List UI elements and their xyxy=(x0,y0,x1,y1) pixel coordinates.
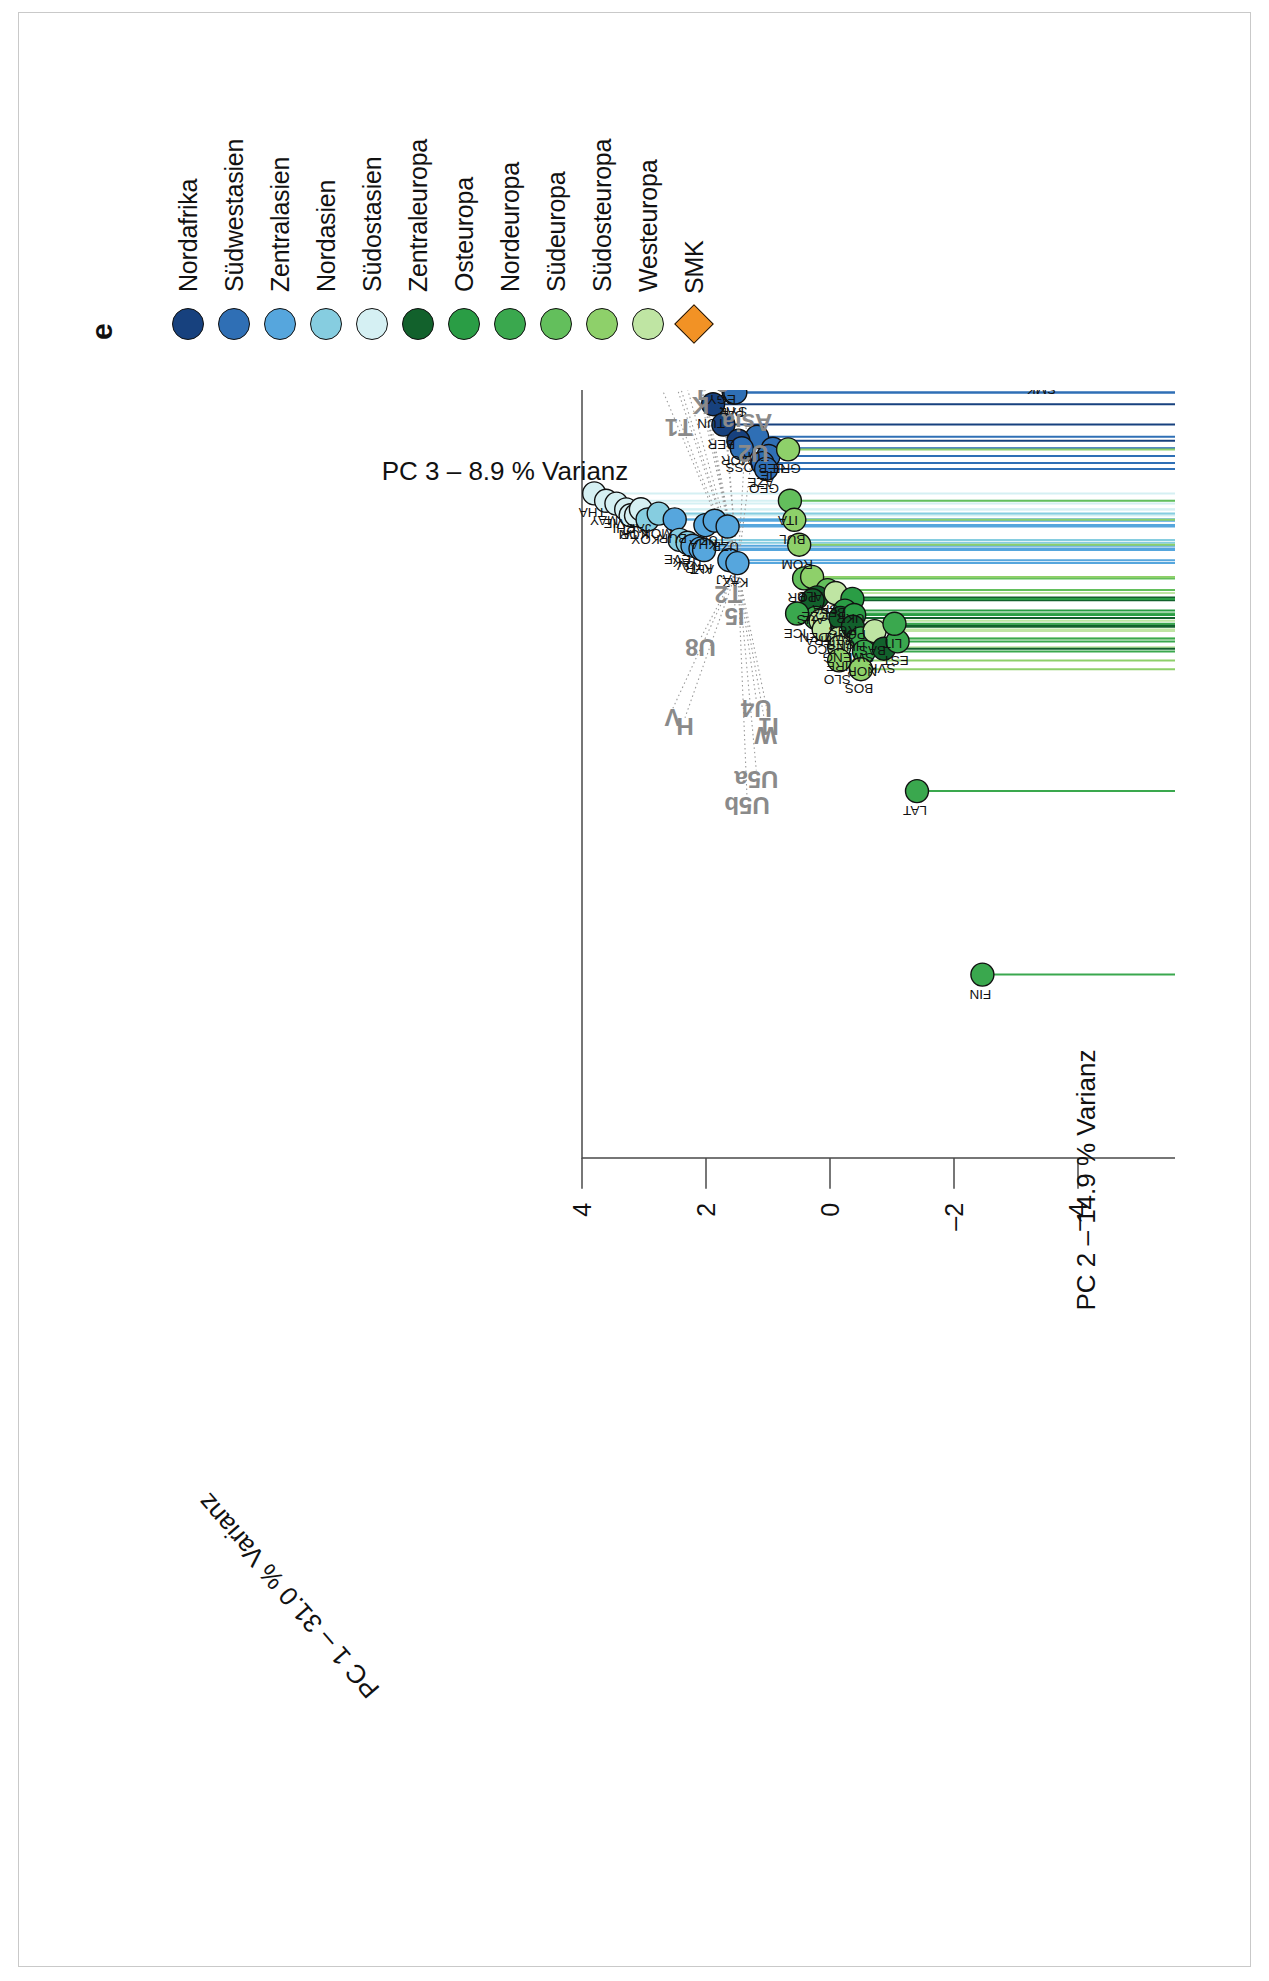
legend-label: Südwestasien xyxy=(219,138,248,291)
point-label: ICE xyxy=(783,625,806,640)
legend-label: Osteuropa xyxy=(449,177,478,292)
point-label: ITA xyxy=(777,512,797,527)
point-label: ALT xyxy=(690,562,714,577)
point-label: BER xyxy=(707,436,735,451)
legend-label: Südostasien xyxy=(357,156,386,291)
haplogroup-label: U5b xyxy=(724,791,769,818)
point-label: SMK xyxy=(1026,390,1055,397)
haplogroup-label: T1 xyxy=(664,413,692,440)
legend-swatch-circle xyxy=(632,308,664,340)
legend-swatch-circle xyxy=(540,308,572,340)
legend-item: Osteuropa xyxy=(441,90,487,340)
point-label: LAT xyxy=(903,803,927,818)
data-point[interactable] xyxy=(776,437,799,460)
pc3-axis-title: PC 3 – 8.9 % Varianz xyxy=(381,456,628,486)
pc1-axis-title: PC 1 – 31.0 % Varianz xyxy=(191,1487,385,1704)
pc3-tick-label: 4 xyxy=(568,1202,596,1216)
point-label: GEO xyxy=(749,480,779,495)
point-label: GRE xyxy=(771,461,800,476)
panel-label: e xyxy=(85,323,119,340)
point-labels: IRQYEMDRZJORSAUIRAKUWUAEEGYPALSYRARMTUNT… xyxy=(578,390,1055,1002)
legend-swatch-circle xyxy=(494,308,526,340)
haplogroup-annotations: HVUAfricaU3otherXNJKaT1AsiaU2T2I5U8U4WI1… xyxy=(581,390,778,819)
point-label: ALB xyxy=(797,588,823,603)
haplogroup-label: I5 xyxy=(724,602,744,629)
legend-swatch-circle xyxy=(402,308,434,340)
data-point[interactable] xyxy=(725,551,748,574)
point-label: ROM xyxy=(781,556,813,571)
data-point[interactable] xyxy=(905,779,928,802)
pca-3d-scatter: –6–4–20246420–2–4–6–8–10–4–20246PC 2 – 1… xyxy=(85,390,1175,1820)
legend-item: Südosteuropa xyxy=(579,90,625,340)
legend-swatch-diamond xyxy=(674,304,714,344)
legend-label: Nordasien xyxy=(311,179,340,291)
legend-label: Westeuropa xyxy=(633,159,662,291)
legend-item: Nordeuropa xyxy=(487,90,533,340)
point-label: AUS xyxy=(796,612,824,627)
legend-item: Südwestasien xyxy=(211,90,257,340)
legend-item: Westeuropa xyxy=(625,90,671,340)
pc3-tick-label: 2 xyxy=(692,1202,720,1216)
haplogroup-label: U5a xyxy=(733,765,778,792)
legend-swatch-circle xyxy=(172,308,204,340)
drop-lines xyxy=(594,390,1175,975)
point-label: BOS xyxy=(844,681,873,696)
pc3-tick-label: –2 xyxy=(940,1202,968,1230)
legend-swatch-circle xyxy=(586,308,618,340)
legend-label: SMK xyxy=(679,240,708,294)
legend-label: Zentralasien xyxy=(265,156,294,291)
legend-item: Südostasien xyxy=(349,90,395,340)
haplogroup-label: V xyxy=(664,703,680,730)
pc3-tick-label: 0 xyxy=(816,1202,844,1216)
legend-label: Nordafrika xyxy=(173,178,202,291)
legend-item: Nordafrika xyxy=(165,90,211,340)
data-points xyxy=(582,390,1056,986)
legend-item: Südeuropa xyxy=(533,90,579,340)
point-label: EST xyxy=(882,653,908,668)
legend-label: Nordeuropa xyxy=(495,161,524,291)
legend-swatch-circle xyxy=(356,308,388,340)
haplogroup-label: Asia xyxy=(721,409,772,436)
legend-swatch-circle xyxy=(310,308,342,340)
plot-canvas: –6–4–20246420–2–4–6–8–10–4–20246PC 2 – 1… xyxy=(85,390,1175,1820)
point-label: BUL xyxy=(778,531,805,546)
legend-item: SMK xyxy=(671,90,717,340)
haplogroup-label: a xyxy=(714,390,728,401)
data-point[interactable] xyxy=(970,963,993,986)
legend-swatch-circle xyxy=(264,308,296,340)
rotated-figure-stage: e –6–4–20246420–2–4–6–8–10–4–20246PC 2 –… xyxy=(45,40,1225,1940)
legend-label: Südosteuropa xyxy=(587,138,616,291)
legend-item: Nordasien xyxy=(303,90,349,340)
legend-label: Zentraleuropa xyxy=(403,138,432,291)
legend: NordafrikaSüdwestasienZentralasienNordas… xyxy=(165,90,717,340)
legend-item: Zentraleuropa xyxy=(395,90,441,340)
haplogroup-label: U8 xyxy=(685,633,716,660)
haplogroup-label: I1 xyxy=(758,712,778,739)
point-label: FIN xyxy=(969,986,991,1001)
legend-swatch-circle xyxy=(218,308,250,340)
legend-label: Südeuropa xyxy=(541,171,570,292)
point-label: UZB xyxy=(712,538,739,553)
legend-item: Zentralasien xyxy=(257,90,303,340)
data-point[interactable] xyxy=(883,612,906,635)
pc2-axis-title: PC 2 – 14.9 % Varianz xyxy=(1071,1049,1101,1310)
legend-swatch-circle xyxy=(448,308,480,340)
figure-frame: e –6–4–20246420–2–4–6–8–10–4–20246PC 2 –… xyxy=(18,12,1251,1967)
point-label: BUR xyxy=(658,531,687,546)
haplogroup-label: U2 xyxy=(737,439,768,466)
point-label: BAS xyxy=(859,643,886,658)
point-label: LIT xyxy=(882,635,902,650)
figure-page: e –6–4–20246420–2–4–6–8–10–4–20246PC 2 –… xyxy=(0,0,1269,1981)
